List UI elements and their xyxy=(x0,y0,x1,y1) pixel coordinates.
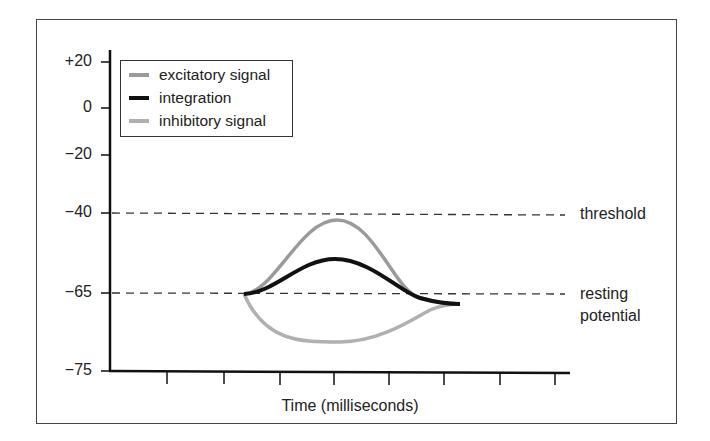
y-tick-label: 0 xyxy=(32,98,92,116)
resting-label-line1: resting xyxy=(580,285,628,303)
legend-item-excitatory: excitatory signal xyxy=(129,66,270,84)
integration-curve xyxy=(244,259,460,304)
legend-swatch xyxy=(129,119,149,123)
y-tick-label: −65 xyxy=(32,283,92,301)
y-ticks xyxy=(101,62,110,371)
resting-label-line2: potential xyxy=(580,307,641,325)
legend-label: integration xyxy=(159,89,231,107)
x-axis-label: Time (milliseconds) xyxy=(0,397,710,415)
y-tick-label: −20 xyxy=(32,145,92,163)
legend-item-inhibitory: inhibitory signal xyxy=(129,112,266,130)
legend-swatch xyxy=(129,96,149,100)
legend-item-integration: integration xyxy=(129,89,231,107)
legend-label: inhibitory signal xyxy=(159,112,266,130)
x-axis xyxy=(109,371,570,373)
x-axis-label-text: Time (milliseconds) xyxy=(281,397,418,414)
threshold-line xyxy=(112,213,565,215)
y-tick-label: +20 xyxy=(32,52,92,70)
legend: excitatory signal integration inhibitory… xyxy=(120,60,293,137)
legend-label: excitatory signal xyxy=(159,66,270,84)
y-tick-label: −75 xyxy=(32,361,92,379)
threshold-label: threshold xyxy=(580,205,646,223)
resting-potential-line xyxy=(112,293,565,294)
y-tick-label: −40 xyxy=(32,203,92,221)
legend-swatch xyxy=(129,73,149,77)
